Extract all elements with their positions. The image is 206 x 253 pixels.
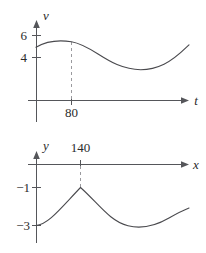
top-y-axis-label: v: [43, 8, 49, 23]
bottom-ytick-label-minus3: −3: [16, 218, 30, 233]
bottom-x-axis-label: x: [192, 157, 199, 172]
two-panel-sinusoid-figure: v t 6 4 80 y: [0, 0, 206, 253]
bottom-curve-path: [36, 188, 189, 228]
top-chart-svg: v t 6 4 80: [0, 0, 206, 126]
bottom-chart-svg: y x −1 −3 140: [0, 126, 206, 253]
top-y-axis-arrowhead: [33, 20, 40, 28]
bottom-x-axis-arrowhead: [181, 161, 189, 168]
top-x-axis-arrowhead: [181, 97, 189, 104]
top-x-axis-label: t: [194, 93, 198, 108]
top-ytick-label-6: 6: [21, 28, 28, 43]
top-ytick-label-4: 4: [21, 50, 28, 65]
chart-panel-top: v t 6 4 80: [0, 0, 206, 126]
bottom-y-axis-label: y: [41, 138, 49, 153]
bottom-ytick-label-minus1: −1: [16, 180, 30, 195]
chart-panel-bottom: y x −1 −3 140: [0, 126, 206, 253]
top-curve-path: [36, 41, 189, 70]
bottom-y-axis-arrowhead: [33, 151, 40, 159]
bottom-xtick-label-140: 140: [71, 140, 91, 155]
top-xtick-label-80: 80: [65, 105, 78, 120]
